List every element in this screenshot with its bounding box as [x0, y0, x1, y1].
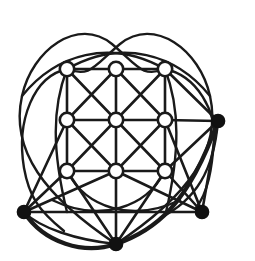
grid-node-bottom-center [109, 164, 123, 178]
grid-node-bottom-left [60, 164, 74, 178]
grid-node-bottom-right [158, 164, 172, 178]
figure-canvas [0, 0, 255, 261]
grid-node-top-right [158, 62, 172, 76]
outer-node-right [211, 114, 224, 127]
grid-node-mid-left [60, 113, 74, 127]
grid-node-top-left [60, 62, 74, 76]
outer-node-bottom-right [195, 205, 208, 218]
grid-node-mid-right [158, 113, 172, 127]
outer-node-left-bottom [17, 205, 30, 218]
grid-node-center [109, 113, 123, 127]
grid-node-top-center [109, 62, 123, 76]
graph-diagram-svg [0, 0, 255, 261]
outer-node-bottom-center [109, 237, 122, 250]
